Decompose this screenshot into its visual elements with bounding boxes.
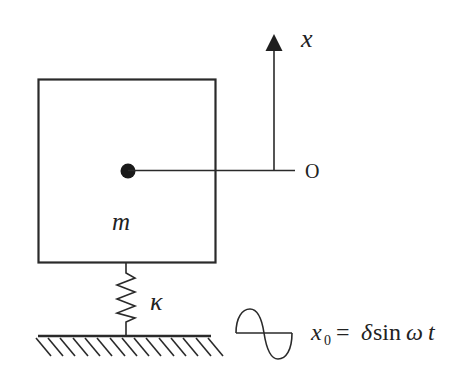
excitation-formula: x 0 = δ sin ω t xyxy=(310,319,436,348)
ground-hatching xyxy=(36,338,223,356)
formula-delta: δ xyxy=(361,319,373,345)
origin-label: O xyxy=(305,160,319,182)
formula-sin: sin xyxy=(373,319,401,345)
formula-omega: ω xyxy=(406,319,423,345)
diagram-canvas: m κ x O x 0 = δ sin ω t xyxy=(0,0,464,388)
mass-label: m xyxy=(112,208,130,235)
formula-subscript: 0 xyxy=(324,333,331,348)
formula-equals: = xyxy=(336,319,350,345)
spring xyxy=(117,262,135,336)
sine-wave-icon xyxy=(236,309,292,359)
x-axis-arrowhead-icon xyxy=(266,34,283,51)
formula-t: t xyxy=(428,319,436,345)
spring-stiffness-label: κ xyxy=(150,287,163,316)
formula-var: x xyxy=(310,319,322,345)
x-axis-label: x xyxy=(300,24,313,53)
